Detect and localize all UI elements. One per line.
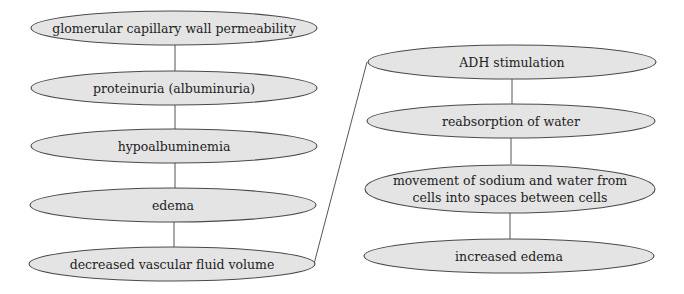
node-label: proteinuria (albuminuria)	[93, 81, 255, 96]
node-hypoalbuminemia: hypoalbuminemia	[31, 129, 317, 163]
node-label: ADH stimulation	[458, 55, 564, 70]
node-edema: edema	[30, 188, 316, 222]
node-decreased-vascular-volume: decreased vascular fluid volume	[29, 247, 315, 281]
flowchart: glomerular capillary wall permeability p…	[0, 0, 684, 294]
node-label: increased edema	[455, 249, 563, 264]
node-label: glomerular capillary wall permeability	[52, 21, 296, 36]
node-label-line1: movement of sodium and water from	[393, 173, 627, 188]
node-label: edema	[152, 198, 195, 213]
node-label: decreased vascular fluid volume	[70, 257, 275, 272]
node-label: hypoalbuminemia	[118, 139, 231, 154]
node-label-line2: cells into spaces between cells	[413, 190, 608, 205]
node-label: reabsorption of water	[442, 114, 580, 129]
node-adh-stimulation: ADH stimulation	[368, 45, 656, 79]
node-proteinuria: proteinuria (albuminuria)	[31, 71, 317, 105]
edge-n5-n6	[314, 62, 367, 264]
node-reabsorption-of-water: reabsorption of water	[367, 104, 655, 138]
node-movement-of-sodium-and-water: movement of sodium and water from cells …	[365, 165, 655, 213]
node-increased-edema: increased edema	[364, 239, 654, 273]
node-glomerular-permeability: glomerular capillary wall permeability	[31, 11, 317, 45]
